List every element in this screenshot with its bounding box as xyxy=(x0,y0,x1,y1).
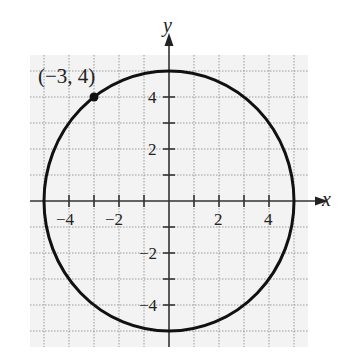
y-tick-label: −2 xyxy=(139,244,157,263)
x-axis-label: x xyxy=(321,188,331,210)
point-marker xyxy=(90,93,99,102)
circle-graph: (−3, 4) x y −4 −2 2 4 4 2 −2 −4 xyxy=(0,0,350,355)
x-tick-label: −2 xyxy=(105,210,123,229)
y-tick-label: 2 xyxy=(148,140,157,159)
point-label: (−3, 4) xyxy=(38,64,95,88)
y-tick-label: 4 xyxy=(148,88,157,107)
x-tick-label: 2 xyxy=(214,210,223,229)
y-axis-label: y xyxy=(161,14,172,37)
x-tick-label: 4 xyxy=(264,210,273,229)
x-tick-label: −4 xyxy=(56,210,75,229)
y-tick-label: −4 xyxy=(139,296,158,315)
